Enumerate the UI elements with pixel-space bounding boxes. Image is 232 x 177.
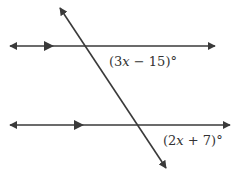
angle-label-top-variable: x (122, 54, 129, 69)
bottom-parallel-mark-icon (74, 120, 84, 130)
angle-label-top: (3x − 15)° (109, 55, 177, 68)
angle-label-top-prefix: (3 (109, 54, 122, 69)
transversal-line (60, 8, 166, 168)
angle-label-bottom-variable: x (176, 133, 183, 148)
parallel-lines-diagram (0, 0, 232, 177)
top-parallel-mark-icon (44, 41, 54, 51)
angle-label-bottom: (2x + 7)° (163, 134, 223, 147)
angle-label-bottom-suffix: + 7)° (184, 133, 223, 148)
angle-label-top-suffix: − 15)° (130, 54, 177, 69)
angle-label-bottom-prefix: (2 (163, 133, 176, 148)
